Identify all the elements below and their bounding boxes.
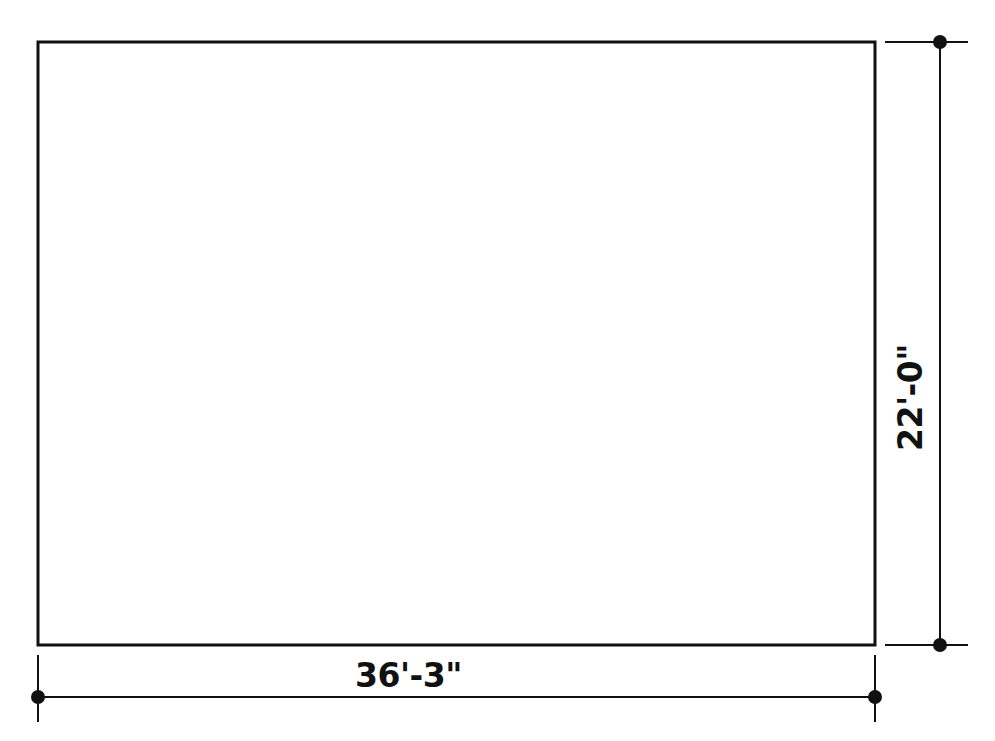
drawing-svg-root [0,0,995,741]
width-dimension-label: 36'-3" [355,659,462,692]
width-dimension-dot-right [868,690,882,704]
plan-rectangle [38,42,875,645]
width-dimension-dot-left [31,690,45,704]
height-dimension-dot-top [933,35,947,49]
height-dimension-label: 22'-0" [894,344,927,451]
technical-drawing-canvas: 36'-3" 22'-0" [0,0,995,741]
height-dimension-dot-bottom [933,638,947,652]
